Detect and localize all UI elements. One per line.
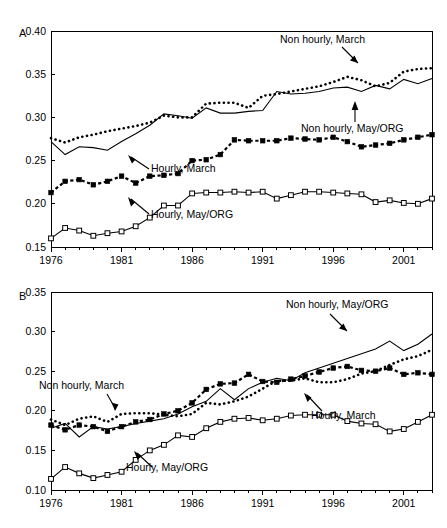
data-point-marker: [63, 428, 68, 433]
data-point-marker: [246, 416, 251, 421]
data-point-marker: [317, 138, 322, 143]
data-point-marker: [274, 196, 279, 201]
data-point-marker: [133, 420, 138, 425]
data-point-marker: [303, 189, 308, 194]
svg-text:0.35: 0.35: [26, 286, 47, 298]
data-point-marker: [246, 372, 251, 377]
data-point-marker: [49, 423, 54, 428]
data-point-marker: [373, 422, 378, 427]
svg-text:0.35: 0.35: [26, 68, 47, 80]
svg-text:0.20: 0.20: [26, 404, 47, 416]
data-point-marker: [77, 471, 82, 476]
data-point-marker: [289, 136, 294, 141]
x-axis: 197619811986199119962001: [39, 247, 432, 266]
data-point-marker: [373, 369, 378, 374]
data-point-marker: [204, 387, 209, 392]
panel-a: A 0.150.200.250.300.350.4019761981198619…: [0, 0, 447, 270]
svg-text:1981: 1981: [110, 497, 134, 509]
data-point-marker: [147, 417, 152, 422]
data-point-marker: [105, 473, 110, 478]
data-point-marker: [77, 177, 82, 182]
data-point-marker: [401, 201, 406, 206]
data-point-marker: [415, 201, 420, 206]
data-point-marker: [147, 174, 152, 179]
svg-text:0.40: 0.40: [26, 25, 47, 37]
data-point-marker: [218, 382, 223, 387]
data-point-marker: [331, 190, 336, 195]
data-point-marker: [190, 435, 195, 440]
data-point-marker: [119, 424, 124, 429]
annotation-arrowhead: [128, 155, 136, 164]
data-point-marker: [49, 477, 54, 482]
annotation-arrowhead: [112, 403, 119, 412]
data-point-marker: [359, 368, 364, 373]
svg-text:0.25: 0.25: [26, 365, 47, 377]
svg-text:0.15: 0.15: [26, 241, 47, 253]
data-point-marker: [373, 200, 378, 205]
data-point-marker: [190, 401, 195, 406]
data-point-marker: [77, 423, 82, 428]
annotation-label: Non hourly, May/ORG: [286, 298, 389, 310]
data-point-marker: [345, 191, 350, 196]
data-point-marker: [430, 372, 435, 377]
svg-text:1991: 1991: [251, 254, 275, 266]
data-point-marker: [303, 412, 308, 417]
series-group: [49, 68, 435, 241]
data-point-marker: [190, 191, 195, 196]
data-point-marker: [415, 419, 420, 424]
data-point-marker: [260, 189, 265, 194]
data-point-marker: [274, 380, 279, 385]
plot-frame: [51, 31, 432, 247]
data-point-marker: [430, 132, 435, 137]
data-point-marker: [345, 364, 350, 369]
series-group: [49, 334, 435, 481]
data-point-marker: [416, 135, 421, 140]
data-point-marker: [232, 189, 237, 194]
data-point-marker: [133, 181, 138, 186]
data-point-marker: [119, 469, 124, 474]
data-point-marker: [105, 231, 110, 236]
data-point-marker: [246, 190, 251, 195]
data-point-marker: [288, 413, 293, 418]
data-point-marker: [359, 421, 364, 426]
data-point-marker: [387, 429, 392, 434]
data-point-marker: [105, 179, 110, 184]
plot-frame: [51, 292, 432, 490]
data-point-marker: [317, 370, 322, 375]
data-point-marker: [331, 366, 336, 371]
x-axis: 197619811986199119962001: [39, 490, 432, 509]
data-point-marker: [359, 192, 364, 197]
data-point-marker: [204, 190, 209, 195]
data-point-marker: [303, 137, 308, 142]
data-point-marker: [176, 409, 181, 414]
svg-text:0.15: 0.15: [26, 444, 47, 456]
data-point-marker: [359, 144, 364, 149]
svg-text:0.30: 0.30: [26, 325, 47, 337]
data-point-marker: [218, 190, 223, 195]
data-point-marker: [63, 465, 68, 470]
data-point-marker: [260, 138, 265, 143]
svg-text:0.10: 0.10: [26, 484, 47, 496]
data-point-marker: [218, 152, 223, 157]
data-point-marker: [204, 426, 209, 431]
data-point-marker: [147, 448, 152, 453]
data-point-marker: [63, 226, 68, 231]
svg-text:1976: 1976: [39, 254, 63, 266]
svg-text:1986: 1986: [180, 497, 204, 509]
data-point-marker: [49, 236, 54, 241]
data-point-marker: [401, 138, 406, 143]
data-point-marker: [317, 189, 322, 194]
data-point-marker: [246, 138, 251, 143]
panel-a-letter: A: [19, 28, 26, 39]
data-point-marker: [232, 416, 237, 421]
annotation-label: Hourly, March: [311, 409, 376, 421]
data-point-marker: [91, 476, 96, 481]
data-point-marker: [161, 442, 166, 447]
annotation-arrowhead: [352, 101, 359, 110]
data-point-marker: [119, 174, 124, 179]
data-point-marker: [345, 139, 350, 144]
data-point-marker: [430, 196, 435, 201]
svg-text:1981: 1981: [110, 254, 134, 266]
panel-b-letter: B: [19, 291, 26, 302]
annotation-label: Hourly, May/ORG: [151, 208, 233, 220]
